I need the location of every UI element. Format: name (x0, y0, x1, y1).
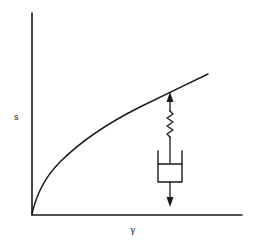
x-axis-label: γ (130, 226, 135, 235)
diagram-canvas (0, 0, 254, 245)
down-arrow-head (167, 197, 174, 207)
stress-strain-curve (32, 74, 208, 214)
y-axis-label: s (14, 113, 19, 122)
maxwell-element-icon (158, 92, 182, 207)
spring-icon (167, 111, 173, 137)
